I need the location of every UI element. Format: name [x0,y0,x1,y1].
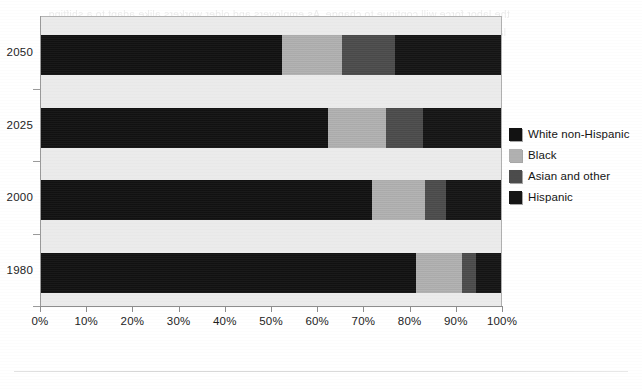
legend-item-1[interactable]: Black [509,145,635,165]
bar-segment-white [40,108,328,148]
x-axis-label-40pct: 40% [199,315,251,327]
legend-item-3[interactable]: Hispanic [509,187,635,207]
x-axis-label-70pct: 70% [337,315,389,327]
plot-inner [40,17,501,306]
legend-label-0: White non-Hispanic [528,128,630,140]
y-axis-label-1980: 1980 [0,264,33,276]
bar-segment-asian [462,253,476,293]
y-axis-label-2050: 2050 [0,46,33,58]
x-axis-label-80pct: 80% [384,315,436,327]
bar-segment-hispanic [476,253,501,293]
bar-segment-hispanic [423,108,501,148]
bar-segment-black [372,180,425,220]
bar-segment-white [40,35,282,75]
bar-segment-asian [386,108,423,148]
y-axis-label-2000: 2000 [0,191,33,203]
bar-segment-black [282,35,342,75]
y-axis-line [40,16,41,306]
x-axis-label-20pct: 20% [106,315,158,327]
bar-segment-white [40,253,416,293]
bar-segment-hispanic [395,35,501,75]
chart-legend: White non-HispanicBlackAsian and otherHi… [509,124,635,208]
x-axis-label-0pct: 0% [14,315,66,327]
x-axis-line [40,306,503,307]
legend-item-2[interactable]: Asian and other [509,166,635,186]
bar-row [40,180,501,220]
legend-label-2: Asian and other [528,170,610,182]
x-axis-label-90pct: 90% [430,315,482,327]
legend-swatch-hispanic [509,191,522,204]
bar-row [40,253,501,293]
plot-area [40,16,502,306]
bar-segment-black [416,253,462,293]
legend-item-0[interactable]: White non-Hispanic [509,124,635,144]
x-axis-label-30pct: 30% [153,315,205,327]
x-axis-label-60pct: 60% [291,315,343,327]
bar-segment-black [328,108,386,148]
bar-row [40,35,501,75]
legend-swatch-black [509,149,522,162]
bar-segment-hispanic [446,180,501,220]
legend-label-1: Black [528,149,557,161]
x-axis-label-10pct: 10% [60,315,112,327]
legend-swatch-asian-and-other [509,170,522,183]
legend-swatch-white-non-hispanic [509,128,522,141]
bar-segment-asian [425,180,446,220]
legend-label-3: Hispanic [528,191,573,203]
stacked-bar-chart: 2050202520001980 0%10%20%30%40%50%60%70%… [0,0,642,389]
y-axis-label-2025: 2025 [0,119,33,131]
bar-segment-white [40,180,372,220]
bar-row [40,108,501,148]
bar-segment-asian [342,35,395,75]
x-axis-label-50pct: 50% [245,315,297,327]
x-axis-label-100pct: 100% [476,315,528,327]
